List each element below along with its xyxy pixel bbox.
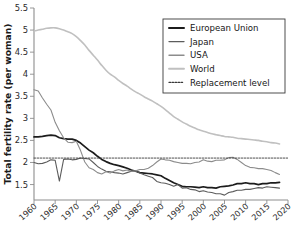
x-tick-label: 1960 — [17, 201, 39, 222]
x-tick-label: 2010 — [228, 201, 250, 222]
y-tick-label: 2 — [23, 157, 28, 167]
series-line-usa — [34, 90, 280, 175]
y-tick-label: 1.5 — [15, 180, 28, 190]
y-tick-label: 3.5 — [15, 91, 28, 101]
y-axis-title-label: Total fertility rate (per woman) — [2, 23, 13, 184]
y-tick-label: 4 — [23, 69, 28, 79]
legend-label-world: World — [190, 64, 215, 74]
x-tick-label: 1975 — [80, 201, 102, 222]
fertility-rate-chart: Total fertility rate (per woman) 1.522.5… — [0, 0, 292, 230]
y-tick-label: 3 — [23, 113, 28, 123]
x-tick-label: 1980 — [101, 201, 123, 222]
y-axis-ticks: 1.522.533.544.555.5 — [15, 3, 34, 190]
x-tick-label: 1995 — [165, 201, 187, 222]
chart-legend: European UnionJapanUSAWorldReplacement l… — [163, 19, 285, 93]
x-tick-label: 1965 — [38, 201, 60, 222]
x-tick-label: 2000 — [186, 201, 208, 222]
y-tick-label: 2.5 — [15, 135, 28, 145]
y-axis-title: Total fertility rate (per woman) — [2, 23, 13, 184]
legend-label-japan: Japan — [189, 37, 214, 47]
y-tick-label: 4.5 — [15, 47, 28, 57]
legend-label-usa: USA — [190, 50, 208, 60]
chart-canvas: Total fertility rate (per woman) 1.522.5… — [0, 0, 292, 230]
x-tick-label: 1990 — [144, 201, 166, 222]
x-tick-label: 2020 — [271, 201, 292, 222]
x-tick-label: 1970 — [59, 201, 81, 222]
legend-label-european-union: European Union — [190, 23, 259, 33]
x-tick-label: 2005 — [207, 201, 229, 222]
x-axis-ticks: 1960196519701975198019851990199520002005… — [17, 200, 292, 222]
legend-label-replacement-level: Replacement level — [190, 78, 270, 88]
x-tick-label: 2015 — [249, 201, 271, 222]
x-tick-label: 1985 — [122, 201, 144, 222]
y-tick-label: 5 — [23, 25, 28, 35]
y-tick-label: 5.5 — [15, 3, 28, 13]
